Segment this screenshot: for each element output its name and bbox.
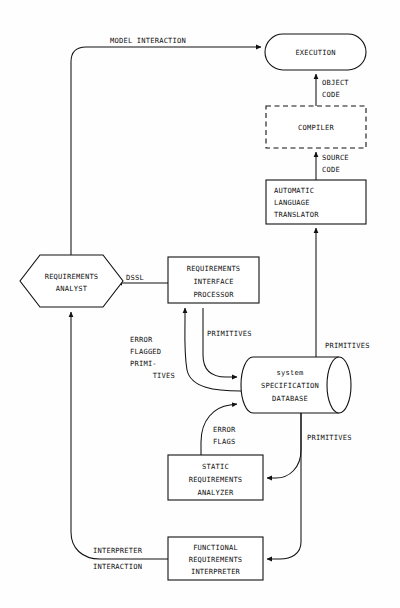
node-requirements-interface-processor-line-1: REQUIREMENTS [187, 264, 241, 273]
node-requirements-interface-processor[interactable]: REQUIREMENTS INTERFACE PROCESSOR [168, 257, 259, 303]
edge-label-source-code-line-2: CODE [322, 165, 340, 174]
edge-label-error-flagged-primitives-line-4: TIVES [153, 371, 175, 380]
node-static-requirements-analyzer[interactable]: STATIC REQUIREMENTS ANALYZER [168, 455, 263, 500]
node-system-specification-database[interactable]: system SPECIFICATION DATABASE [241, 357, 351, 413]
node-automatic-language-translator-line-3: TRANSLATOR [274, 210, 319, 219]
node-requirements-interface-processor-line-2: INTERFACE [193, 277, 233, 286]
node-static-requirements-analyzer-line-2: REQUIREMENTS [189, 475, 243, 484]
edge-label-error-flagged-primitives-line-3: PRIMI- [130, 359, 157, 368]
edge-label-source-code-line-1: SOURCE [322, 153, 349, 162]
edge-label-primitives-to-rip: PRIMITIVES [207, 329, 252, 338]
edge-label-object-code-line-1: OBJECT [322, 78, 349, 87]
edge-rip-to-database-primitives [203, 308, 237, 377]
requirements-engineering-flow-diagram: EXECUTION COMPILER AUTOMATIC LANGUAGE TR… [0, 0, 400, 608]
edge-label-model-interaction: MODEL INTERACTION [110, 36, 186, 45]
edge-label-primitives-to-analyzer: PRIMITIVES [307, 433, 352, 442]
node-automatic-language-translator[interactable]: AUTOMATIC LANGUAGE TRANSLATOR [266, 180, 366, 224]
edge-label-interpreter-interaction-line-1: INTERPRETER [93, 546, 143, 555]
node-static-requirements-analyzer-line-1: STATIC [202, 462, 229, 471]
node-execution[interactable]: EXECUTION [265, 34, 366, 70]
edge-label-object-code-line-2: CODE [322, 90, 340, 99]
node-requirements-analyst[interactable]: REQUIREMENTS ANALYST [20, 255, 123, 307]
node-system-specification-database-line-1: system [277, 368, 304, 377]
edge-label-error-flagged-primitives-line-2: FLAGGED [130, 347, 161, 356]
node-execution-label: EXECUTION [295, 48, 335, 57]
edge-label-primitives-to-translator: PRIMITIVES [325, 341, 370, 350]
diagram-canvas: EXECUTION COMPILER AUTOMATIC LANGUAGE TR… [0, 0, 400, 608]
node-system-specification-database-line-2: SPECIFICATION [261, 381, 319, 390]
node-automatic-language-translator-line-2: LANGUAGE [274, 198, 310, 207]
edge-database-to-interpreter [267, 413, 301, 559]
node-static-requirements-analyzer-line-3: ANALYZER [198, 488, 234, 497]
node-requirements-analyst-line-2: ANALYST [56, 284, 88, 293]
edge-label-dssl: DSSL [126, 273, 144, 282]
node-requirements-interface-processor-line-3: PROCESSOR [193, 290, 234, 299]
edge-label-error-flags-line-2: FLAGS [213, 437, 235, 446]
node-compiler-label: COMPILER [298, 123, 334, 132]
node-requirements-analyst-line-1: REQUIREMENTS [45, 272, 99, 281]
edge-database-to-analyzer-primitives [267, 413, 301, 478]
node-functional-requirements-interpreter-line-3: INTERPRETER [191, 567, 241, 576]
node-compiler[interactable]: COMPILER [266, 106, 366, 148]
edge-label-error-flagged-primitives-line-1: ERROR [130, 335, 153, 344]
node-system-specification-database-line-3: DATABASE [272, 394, 308, 403]
edge-analyst-to-execution [71, 47, 261, 255]
node-automatic-language-translator-line-1: AUTOMATIC [274, 186, 314, 195]
edge-label-error-flags-line-1: ERROR [213, 425, 236, 434]
node-functional-requirements-interpreter[interactable]: FUNCTIONAL REQUIREMENTS INTERPRETER [168, 537, 263, 580]
node-functional-requirements-interpreter-line-2: REQUIREMENTS [189, 555, 243, 564]
edge-label-interpreter-interaction-line-2: INTERACTION [93, 562, 142, 571]
node-functional-requirements-interpreter-line-1: FUNCTIONAL [193, 543, 238, 552]
edge-database-to-rip-error-flagged [185, 308, 241, 391]
